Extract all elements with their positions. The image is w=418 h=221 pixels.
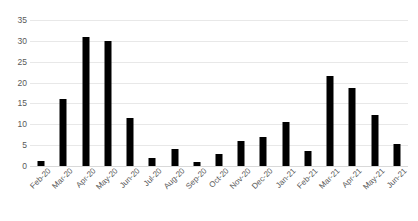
bar-slot [119, 20, 141, 166]
bar[interactable] [171, 149, 178, 166]
x-axis-tick-label: Sep-20 [185, 167, 209, 191]
x-axis-tick-label: Feb-20 [29, 167, 53, 191]
bar[interactable] [82, 37, 89, 166]
bar-slot [297, 20, 319, 166]
plot-area [30, 20, 408, 166]
bar-chart: 05101520253035 Feb-20Mar-20Apr-20May-20J… [0, 0, 418, 221]
bar-slot [163, 20, 185, 166]
y-axis-tick-label: 5 [1, 141, 27, 150]
x-axis-tick-label: Apr-21 [341, 167, 364, 190]
y-axis-tick-label: 15 [1, 99, 27, 108]
bar[interactable] [104, 41, 111, 166]
x-axis-tick-label: Jun-21 [386, 167, 409, 190]
bar-series [30, 20, 408, 166]
bar[interactable] [193, 162, 200, 166]
bar-slot [208, 20, 230, 166]
x-axis-tick-label: Jul-20 [143, 167, 164, 188]
bar[interactable] [260, 137, 267, 166]
bar[interactable] [127, 118, 134, 166]
y-axis-tick-label: 0 [1, 162, 27, 171]
bar-slot [319, 20, 341, 166]
bar[interactable] [149, 158, 156, 166]
bar[interactable] [38, 161, 45, 166]
y-axis-tick-label: 25 [1, 57, 27, 66]
bar[interactable] [304, 151, 311, 166]
x-axis-tick-label: Dec-20 [251, 167, 275, 191]
bar[interactable] [215, 154, 222, 167]
bar-slot [275, 20, 297, 166]
bar-slot [386, 20, 408, 166]
x-axis-tick-label: Oct-20 [208, 167, 231, 190]
bar-slot [230, 20, 252, 166]
x-axis-tick-label: Mar-21 [318, 167, 342, 191]
x-axis-tick-label: Aug-20 [162, 167, 186, 191]
bar[interactable] [60, 99, 67, 166]
y-axis-tick-label: 20 [1, 78, 27, 87]
bar-slot [341, 20, 363, 166]
bar[interactable] [327, 76, 334, 166]
x-axis-tick-label: Mar-20 [51, 167, 75, 191]
y-axis: 05101520253035 [0, 20, 27, 166]
x-axis-tick-label: Nov-20 [229, 167, 253, 191]
x-axis-tick-label: Jan-21 [274, 167, 297, 190]
bar[interactable] [282, 122, 289, 166]
bar-slot [252, 20, 274, 166]
y-axis-tick-label: 35 [1, 16, 27, 25]
bar-slot [52, 20, 74, 166]
x-axis-tick-label: Feb-21 [296, 167, 320, 191]
bar-slot [30, 20, 52, 166]
bar[interactable] [238, 141, 245, 166]
x-axis-tick-label: May-21 [362, 167, 387, 192]
y-axis-tick-label: 30 [1, 37, 27, 46]
x-axis-tick-label: Apr-20 [75, 167, 98, 190]
bar-slot [141, 20, 163, 166]
bar-slot [364, 20, 386, 166]
bar[interactable] [371, 115, 378, 166]
bar-slot [74, 20, 96, 166]
bar[interactable] [349, 88, 356, 166]
x-axis: Feb-20Mar-20Apr-20May-20Jun-20Jul-20Aug-… [30, 167, 408, 221]
y-axis-tick-label: 10 [1, 120, 27, 129]
bar-slot [186, 20, 208, 166]
bar[interactable] [393, 144, 400, 166]
x-axis-tick-label: Jun-20 [119, 167, 142, 190]
bar-slot [97, 20, 119, 166]
x-axis-tick-label: May-20 [95, 167, 120, 192]
